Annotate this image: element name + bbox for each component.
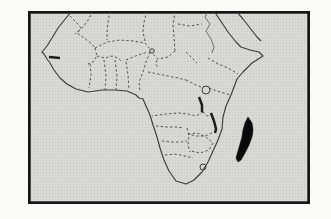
gambia-mark <box>49 57 60 58</box>
africa-map-canvas <box>0 0 331 219</box>
map-frame <box>29 12 308 202</box>
screenshot-root <box>0 0 331 219</box>
